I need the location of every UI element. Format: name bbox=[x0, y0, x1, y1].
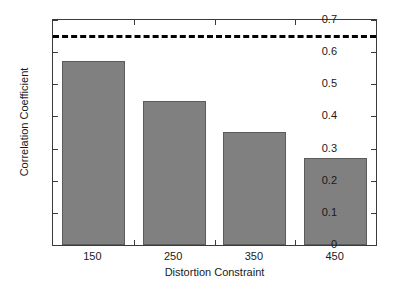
y-tick-right-0.6 bbox=[371, 52, 376, 53]
x-tick-label-150: 150 bbox=[83, 250, 101, 262]
y-tick-label-0.3: 0.3 bbox=[322, 142, 337, 153]
y-tick-label-0: 0 bbox=[331, 239, 337, 250]
y-tick-right-0 bbox=[371, 245, 376, 246]
y-tick-0.6 bbox=[53, 52, 58, 53]
bar-250 bbox=[143, 101, 206, 245]
bar-150 bbox=[62, 61, 125, 245]
x-tick-3 bbox=[295, 240, 296, 245]
x-tick-top-1 bbox=[134, 20, 135, 25]
y-axis-title: Correlation Coefficient bbox=[18, 32, 30, 212]
bar-350 bbox=[223, 132, 286, 245]
x-tick-top-2 bbox=[215, 20, 216, 25]
y-tick-right-0.3 bbox=[371, 149, 376, 150]
y-tick-0.7 bbox=[53, 20, 58, 21]
x-tick-top-3 bbox=[295, 20, 296, 25]
x-axis-title: Distortion Constraint bbox=[52, 266, 377, 278]
y-tick-right-0.1 bbox=[371, 213, 376, 214]
y-tick-label-0.6: 0.6 bbox=[322, 46, 337, 57]
reference-threshold-line bbox=[53, 35, 376, 38]
x-tick-label-450: 450 bbox=[325, 250, 343, 262]
y-tick-0.5 bbox=[53, 84, 58, 85]
y-tick-right-0.2 bbox=[371, 181, 376, 182]
y-tick-right-0.7 bbox=[371, 20, 376, 21]
y-tick-label-0.1: 0.1 bbox=[322, 206, 337, 217]
y-tick-label-0.7: 0.7 bbox=[322, 14, 337, 25]
bar-450 bbox=[304, 158, 367, 245]
y-tick-label-0.5: 0.5 bbox=[322, 78, 337, 89]
x-tick-2 bbox=[215, 240, 216, 245]
chart-figure: Correlation Coefficient Distortion Const… bbox=[0, 0, 393, 290]
x-tick-label-250: 250 bbox=[164, 250, 182, 262]
y-tick-right-0.5 bbox=[371, 84, 376, 85]
y-tick-right-0.4 bbox=[371, 116, 376, 117]
y-tick-label-0.4: 0.4 bbox=[322, 110, 337, 121]
y-tick-0.1 bbox=[53, 213, 58, 214]
y-tick-0.2 bbox=[53, 181, 58, 182]
y-tick-label-0.2: 0.2 bbox=[322, 174, 337, 185]
y-tick-0.4 bbox=[53, 116, 58, 117]
y-tick-0.3 bbox=[53, 149, 58, 150]
y-tick-0 bbox=[53, 245, 58, 246]
x-tick-1 bbox=[134, 240, 135, 245]
x-tick-label-350: 350 bbox=[245, 250, 263, 262]
